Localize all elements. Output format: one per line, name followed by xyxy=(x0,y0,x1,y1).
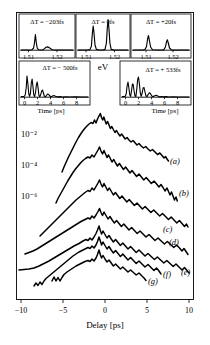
xtick-0: 0 xyxy=(103,306,107,315)
inset-title-0fs: ΔT = 0fs xyxy=(91,18,115,25)
y-label-1e-4: 10⁻⁴ xyxy=(21,160,37,170)
xtick-10: 10 xyxy=(185,306,193,315)
inset-spectrum-minus203: ΔT = −203fs 1.51 1.52 xyxy=(19,14,75,60)
curve-label-a: (a) xyxy=(170,156,180,166)
inset-title-plus533: ΔT = + 533fs xyxy=(145,66,181,73)
tick-t0-a: 0 xyxy=(23,99,26,106)
inset-xlabel-minus500: Time [ps] xyxy=(37,107,64,115)
tick-t2-a: 2 xyxy=(36,99,39,106)
tick-1-51-b: 1.51 xyxy=(80,53,91,60)
tick-1-51-c: 1.51 xyxy=(140,53,151,60)
curve-label-b: (b) xyxy=(179,188,189,198)
curve-label-g: (g) xyxy=(148,276,158,286)
curve-label-c: (c) xyxy=(163,224,173,234)
energy-axis-label: eV xyxy=(98,62,109,72)
inset-xlabel-plus533: Time [ps] xyxy=(151,107,178,115)
tick-t6-b: 6 xyxy=(163,99,166,106)
tick-t6-a: 6 xyxy=(62,99,65,106)
tick-1-52-c: 1.52 xyxy=(167,53,178,60)
figure-container: ΔT = −203fs 1.51 1.52 ΔT = 0fs 1.51 1.52… xyxy=(0,0,210,345)
xtick-minus5: −5 xyxy=(59,306,68,315)
main-xaxis: −10 −5 0 5 10 xyxy=(15,300,193,316)
tick-1-51-a: 1.51 xyxy=(23,53,34,60)
curve-label-d: (d) xyxy=(169,237,179,247)
xtick-5: 5 xyxy=(145,306,149,315)
inset-spectrum-plus20: ΔT = +20fs 1.51 1.52 xyxy=(131,14,191,60)
tick-1-52-b: 1.52 xyxy=(109,53,120,60)
tick-t8-b: 8 xyxy=(176,99,179,106)
curve-label-e: (e) xyxy=(181,267,191,277)
main-curve-g xyxy=(52,250,146,281)
main-xaxis-label: Delay [ps] xyxy=(86,320,124,330)
tick-t0-b: 0 xyxy=(124,99,127,106)
y-label-1e-2: 10⁻² xyxy=(21,129,37,139)
inset-spectrum-0fs: ΔT = 0fs 1.51 1.52 xyxy=(76,14,130,60)
tick-t2-b: 2 xyxy=(137,99,140,106)
y-label-1e-6: 10⁻⁶ xyxy=(21,191,37,201)
tick-1-52-a: 1.52 xyxy=(51,53,62,60)
inset-title-minus203: ΔT = −203fs xyxy=(30,18,64,25)
tick-t8-a: 8 xyxy=(75,99,78,106)
inset-title-plus20: ΔT = +20fs xyxy=(146,18,177,25)
curve-label-f: (f) xyxy=(163,269,171,279)
inset-timetrace-plus533: ΔT = + 533fs 0 2 4 6 8 Time [ps] xyxy=(120,61,191,115)
inset-timetrace-minus500: ΔT = − 500fs 0 2 4 6 8 Time [ps] xyxy=(19,61,90,115)
xtick-minus10: −10 xyxy=(15,306,28,315)
inset-title-minus500: ΔT = − 500fs xyxy=(42,64,78,71)
